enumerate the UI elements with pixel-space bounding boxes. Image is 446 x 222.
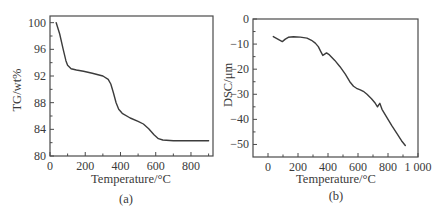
x-tick-label: 200 <box>76 159 94 173</box>
x-tick-label: 800 <box>379 160 397 174</box>
x-tick-label: 1 000 <box>405 160 432 174</box>
tg-chart-panel: 8084889296100 0200400600800 Temperature/… <box>10 16 213 206</box>
dsc-curve <box>273 37 405 146</box>
dsc-y-axis-label: DSC/μm <box>221 63 235 107</box>
x-tick-label: 800 <box>182 159 200 173</box>
tg-y-tick-labels: 8084889296100 <box>28 16 46 163</box>
y-tick-label: 96 <box>34 42 46 56</box>
tg-axis-ticks <box>50 23 209 156</box>
y-tick-label: 88 <box>34 96 46 110</box>
panel-b-caption: (b) <box>329 189 344 203</box>
y-tick-label: 80 <box>34 149 46 163</box>
y-tick-label: −40 <box>230 112 249 126</box>
y-tick-label: 84 <box>34 122 46 136</box>
y-tick-label: 92 <box>34 69 46 83</box>
dsc-chart-panel: 0−10−20−30−40−50 02004006008001 000 Temp… <box>221 12 432 203</box>
x-tick-label: 0 <box>47 159 53 173</box>
tg-x-tick-labels: 0200400600800 <box>47 159 200 173</box>
x-tick-label: 0 <box>265 160 271 174</box>
tg-plot-frame <box>50 16 213 156</box>
y-tick-label: −10 <box>230 37 249 51</box>
y-tick-label: −50 <box>230 137 249 151</box>
y-tick-label: 100 <box>28 16 46 30</box>
y-tick-label: 0 <box>243 12 249 26</box>
figure: 8084889296100 0200400600800 Temperature/… <box>0 0 446 222</box>
dsc-x-axis-label: Temperature/°C <box>296 172 376 186</box>
x-tick-label: 600 <box>147 159 165 173</box>
tg-x-axis-label: Temperature/°C <box>91 172 171 186</box>
tg-curve <box>56 23 208 141</box>
x-tick-label: 400 <box>111 159 129 173</box>
tg-y-axis-label: TG/wt% <box>10 68 24 111</box>
panel-a-caption: (a) <box>119 192 133 206</box>
